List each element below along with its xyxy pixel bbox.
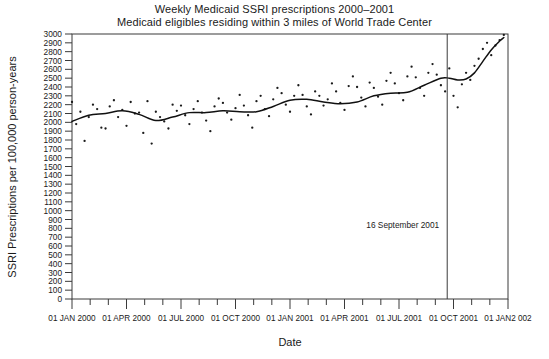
data-point (322, 104, 324, 106)
data-point (402, 99, 404, 101)
data-point (155, 111, 157, 113)
data-point (431, 63, 433, 65)
data-point (117, 116, 119, 118)
x-tick-label: 01 OCT 2001 (429, 314, 478, 323)
chart-container: Weekly Medicaid SSRI prescriptions 2000–… (0, 0, 549, 359)
data-point (192, 108, 194, 110)
data-point (96, 108, 98, 110)
data-point (268, 115, 270, 117)
data-point (469, 79, 471, 81)
data-point (167, 127, 169, 129)
data-point (356, 86, 358, 88)
data-point (184, 114, 186, 116)
data-point (276, 87, 278, 89)
data-point (113, 99, 115, 101)
data-point (109, 105, 111, 107)
data-point (75, 123, 77, 125)
data-point (218, 97, 220, 99)
data-point (272, 98, 274, 100)
data-point (251, 126, 253, 128)
data-point (310, 113, 312, 115)
x-tick-label: 01 JAN2 002 (484, 314, 532, 323)
data-point (473, 65, 475, 67)
data-point (301, 94, 303, 96)
data-point (389, 72, 391, 74)
data-point (213, 105, 215, 107)
plot-frame (72, 34, 508, 299)
chart-plot-area: 3000290028002700260025002400230022002100… (0, 0, 549, 359)
data-point (92, 104, 94, 106)
data-point (461, 83, 463, 85)
data-point (394, 82, 396, 84)
data-point (289, 111, 291, 113)
data-point (503, 34, 505, 36)
data-point (369, 81, 371, 83)
data-point (100, 126, 102, 128)
data-point (352, 75, 354, 77)
data-point (343, 109, 345, 111)
data-point (444, 90, 446, 92)
y-axis-title: SSRI Prescriptions per 100,000 person-ye… (6, 56, 18, 278)
data-point (348, 85, 350, 87)
data-point (142, 132, 144, 134)
x-tick-label: 01 JUL 2000 (158, 314, 205, 323)
data-point (71, 101, 73, 103)
x-axis-ticks: 01 JAN 200001 APR 200001 JUL 200001 OCT … (48, 299, 532, 323)
data-point (297, 84, 299, 86)
data-point (360, 96, 362, 98)
data-point (490, 54, 492, 56)
data-point (130, 101, 132, 103)
data-point (209, 130, 211, 132)
data-point (83, 140, 85, 142)
y-tick-label: 0 (57, 294, 62, 304)
data-point (457, 106, 459, 108)
x-tick-label: 01 APR 2000 (102, 314, 151, 323)
data-point (280, 92, 282, 94)
data-point (104, 127, 106, 129)
data-point (188, 123, 190, 125)
data-point (440, 84, 442, 86)
data-point (222, 102, 224, 104)
data-point (427, 72, 429, 74)
data-point (260, 95, 262, 97)
data-point (318, 95, 320, 97)
data-point (234, 107, 236, 109)
data-point (239, 94, 241, 96)
data-point (331, 82, 333, 84)
data-point (482, 48, 484, 50)
data-point (125, 125, 127, 127)
data-point (486, 42, 488, 44)
data-point (151, 142, 153, 144)
data-point (180, 104, 182, 106)
x-tick-label: 01 OCT 2000 (211, 314, 260, 323)
data-point (285, 104, 287, 106)
data-point (146, 100, 148, 102)
x-axis-title: Date (278, 336, 301, 348)
data-point (306, 105, 308, 107)
data-point (335, 90, 337, 92)
data-point (406, 75, 408, 77)
data-point (230, 119, 232, 121)
data-point (452, 95, 454, 97)
data-point (176, 110, 178, 112)
data-point (410, 66, 412, 68)
data-point (385, 80, 387, 82)
data-point (448, 67, 450, 69)
data-point (314, 90, 316, 92)
event-annotation-label: 16 September 2001 (366, 220, 439, 230)
data-point (171, 104, 173, 106)
data-point (327, 98, 329, 100)
data-point (255, 100, 257, 102)
data-point (364, 105, 366, 107)
data-point (377, 96, 379, 98)
data-point (465, 72, 467, 74)
data-point (159, 116, 161, 118)
data-point (373, 87, 375, 89)
data-point (381, 104, 383, 106)
data-point (247, 114, 249, 116)
x-tick-label: 01 JAN 2001 (266, 314, 314, 323)
data-point (226, 111, 228, 113)
data-point (415, 76, 417, 78)
x-tick-label: 01 JAN 2000 (48, 314, 96, 323)
data-point (163, 120, 165, 122)
